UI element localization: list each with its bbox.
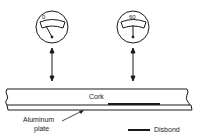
leader-arrowhead-icon: [79, 110, 84, 114]
aluminum-label-line2: plate: [34, 125, 49, 133]
right-double-arrow-icon: [131, 48, 135, 81]
right-gauge-reading: 60: [129, 13, 136, 21]
aluminum-leader-line: [62, 111, 82, 121]
left-gauge-icon: [36, 11, 68, 43]
left-double-arrow-icon: [50, 48, 54, 81]
left-gauge-reading: 0: [42, 13, 45, 21]
legend-disbond-label: Disbond: [154, 126, 180, 134]
aluminum-plate-layer: [7, 105, 192, 110]
cork-label: Cork: [89, 93, 104, 101]
aluminum-label-line1: Aluminum: [23, 116, 54, 124]
